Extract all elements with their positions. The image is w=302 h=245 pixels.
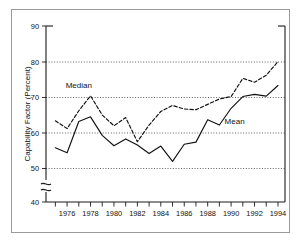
y-axis-title: Capability Factor (Percent) [23, 66, 32, 161]
x-tick-label-1984: 1984 [153, 209, 169, 218]
y-axis-break-icon-2 [41, 189, 51, 190]
y-tick-label-80: 80 [31, 58, 39, 67]
annotation-median: Median [66, 81, 92, 90]
y-ticks [42, 26, 46, 202]
x-tick-label-1980: 1980 [106, 209, 122, 218]
x-tick-label-1994: 1994 [270, 209, 286, 218]
axes [41, 26, 285, 202]
x-ticks [55, 202, 278, 207]
x-tick-label-1982: 1982 [129, 209, 145, 218]
x-tick-label-1988: 1988 [199, 209, 215, 218]
series-line-median [55, 62, 278, 142]
capability-factor-line-chart: 90 80 70 60 50 40 Capability Factor (Per… [0, 0, 302, 245]
x-tick-label-1986: 1986 [176, 209, 192, 218]
y-tick-labels: 90 80 70 60 50 40 [31, 22, 39, 207]
x-tick-label-1990: 1990 [223, 209, 239, 218]
x-tick-label-1976: 1976 [59, 209, 75, 218]
y-tick-label-40: 40 [31, 198, 39, 207]
annotation-mean: Mean [225, 117, 245, 126]
x-tick-label-1978: 1978 [82, 209, 98, 218]
y-tick-label-90: 90 [31, 22, 39, 31]
y-tick-label-70: 70 [31, 93, 39, 102]
figure-container: 90 80 70 60 50 40 Capability Factor (Per… [0, 0, 302, 245]
y-tick-label-60: 60 [31, 129, 39, 138]
x-tick-label-1992: 1992 [246, 209, 262, 218]
y-tick-label-50: 50 [31, 164, 39, 173]
y-axis-break-icon [41, 183, 51, 184]
x-tick-labels: 1976197819801982198419861988199019921994 [59, 209, 286, 218]
